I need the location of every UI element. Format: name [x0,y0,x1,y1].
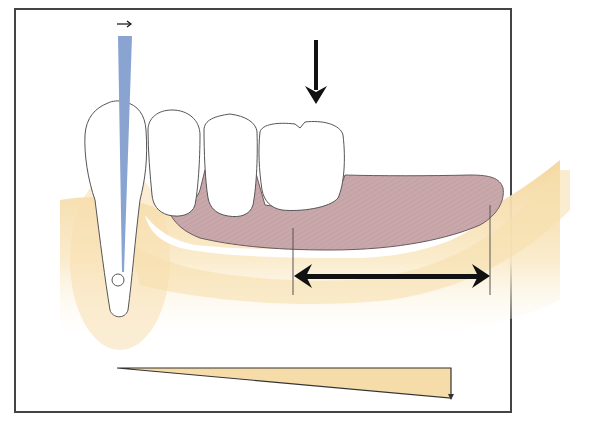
denture-tooth-1 [148,110,200,216]
post-tip [112,274,124,286]
rotation-arrow-icon [117,21,131,27]
dental-diagram [0,0,613,427]
stress-wedge [117,368,451,398]
denture-tooth-3 [259,122,344,211]
denture-tooth-2 [204,114,257,217]
load-arrow-icon [305,40,327,104]
